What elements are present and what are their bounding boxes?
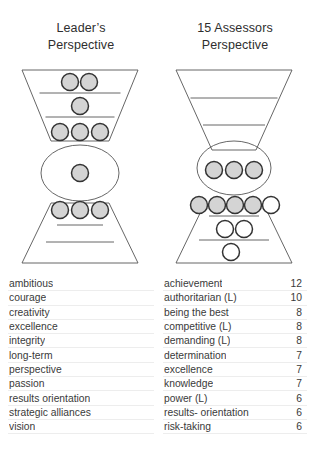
- table-row[interactable]: achievement12: [163, 277, 307, 291]
- list-item-label: knowledge: [164, 378, 213, 389]
- list-item-label: power (L): [164, 393, 208, 404]
- list-item-label: achievement: [164, 278, 222, 289]
- list-item[interactable]: results orientation: [8, 391, 154, 405]
- assessors-circle-filled: [206, 162, 223, 179]
- list-item-label: courage: [9, 292, 46, 303]
- list-item-label: excellence: [164, 364, 213, 375]
- list-item-value: 8: [286, 321, 305, 332]
- table-row[interactable]: demanding (L)8: [163, 334, 307, 348]
- right-title-line-2: Perspective: [160, 37, 310, 54]
- table-row[interactable]: knowledge7: [163, 377, 307, 391]
- assessors-circle-empty: [263, 197, 280, 214]
- list-item-value: 12: [286, 278, 305, 289]
- leader-values-list: ambitious courage creativity excellence …: [8, 277, 154, 434]
- list-item[interactable]: excellence: [8, 320, 154, 334]
- leader-circle-filled: [72, 165, 89, 182]
- table-row[interactable]: determination7: [163, 348, 307, 362]
- list-item-label: ambitious: [9, 278, 53, 289]
- list-item-value: 6: [286, 421, 305, 432]
- leader-circle-filled: [72, 124, 89, 141]
- leader-funnel-figure: [4, 64, 156, 270]
- table-row[interactable]: results- orientation6: [163, 406, 307, 420]
- table-row[interactable]: authoritarian (L)10: [163, 291, 307, 305]
- list-item-label: authoritarian (L): [164, 292, 237, 303]
- table-row[interactable]: risk-taking6: [163, 420, 307, 434]
- list-item-label: results- orientation: [164, 407, 249, 418]
- left-title-line-1: Leader’s: [6, 20, 156, 37]
- left-title-line-2: Perspective: [6, 37, 156, 54]
- right-panel-title: 15 Assessors Perspective: [160, 20, 310, 54]
- list-item[interactable]: strategic alliances: [8, 406, 154, 420]
- leader-circle-filled: [52, 124, 69, 141]
- assessors-circle-filled: [246, 162, 263, 179]
- list-item-label: vision: [9, 421, 35, 432]
- list-item[interactable]: integrity: [8, 334, 154, 348]
- list-item-value: 8: [286, 335, 305, 346]
- list-item-value: 7: [286, 378, 305, 389]
- table-row[interactable]: excellence7: [163, 363, 307, 377]
- table-row[interactable]: power (L)6: [163, 391, 307, 405]
- leader-funnel-svg: [4, 64, 156, 270]
- list-item-value: 6: [286, 393, 305, 404]
- list-item-label: competitive (L): [164, 321, 232, 332]
- list-item[interactable]: perspective: [8, 363, 154, 377]
- list-item-label: demanding (L): [164, 335, 230, 346]
- leader-circle-filled: [92, 202, 109, 219]
- list-item-label: perspective: [9, 364, 62, 375]
- list-item-label: long-term: [9, 350, 53, 361]
- left-panel-title: Leader’s Perspective: [6, 20, 156, 54]
- assessors-circle-filled: [191, 197, 208, 214]
- list-item-label: excellence: [9, 321, 58, 332]
- assessors-funnel-svg: [158, 64, 310, 270]
- list-item[interactable]: creativity: [8, 306, 154, 320]
- leader-circle-filled: [81, 74, 98, 91]
- list-item-label: integrity: [9, 335, 45, 346]
- leader-circle-filled: [92, 124, 109, 141]
- list-item-label: determination: [164, 350, 226, 361]
- list-item[interactable]: long-term: [8, 348, 154, 362]
- assessors-circle-filled: [245, 197, 262, 214]
- list-item-value: 8: [286, 307, 305, 318]
- leader-circle-filled: [62, 74, 79, 91]
- assessors-circle-filled: [209, 197, 226, 214]
- list-item-value: 7: [286, 364, 305, 375]
- right-title-line-1: 15 Assessors: [160, 20, 310, 37]
- list-item-label: being the best: [164, 307, 229, 318]
- assessors-top-cone: [176, 70, 292, 150]
- leader-circle-filled: [72, 202, 89, 219]
- assessors-circle-empty: [223, 244, 240, 261]
- assessors-values-list: achievement12 authoritarian (L)10 being …: [163, 277, 307, 434]
- list-item[interactable]: passion: [8, 377, 154, 391]
- list-item-value: 10: [286, 292, 305, 303]
- list-item-label: risk-taking: [164, 421, 211, 432]
- leader-circle-filled: [52, 202, 69, 219]
- table-row[interactable]: competitive (L)8: [163, 320, 307, 334]
- assessors-circle-filled: [226, 162, 243, 179]
- list-item-value: 7: [286, 350, 305, 361]
- list-item[interactable]: vision: [8, 420, 154, 434]
- list-item-value: 6: [286, 407, 305, 418]
- list-item-label: creativity: [9, 307, 50, 318]
- assessors-funnel-figure: [158, 64, 310, 270]
- assessors-circle-empty: [217, 221, 234, 238]
- assessors-circle-empty: [236, 221, 253, 238]
- list-item-label: results orientation: [9, 393, 90, 404]
- diagram-page: Leader’s Perspective 15 Assessors Perspe…: [0, 0, 315, 460]
- leader-circle-filled: [72, 98, 89, 115]
- list-item-label: passion: [9, 378, 45, 389]
- list-item[interactable]: ambitious: [8, 277, 154, 291]
- assessors-circle-filled: [227, 197, 244, 214]
- list-item-label: strategic alliances: [9, 407, 91, 418]
- list-item[interactable]: courage: [8, 291, 154, 305]
- table-row[interactable]: being the best8: [163, 306, 307, 320]
